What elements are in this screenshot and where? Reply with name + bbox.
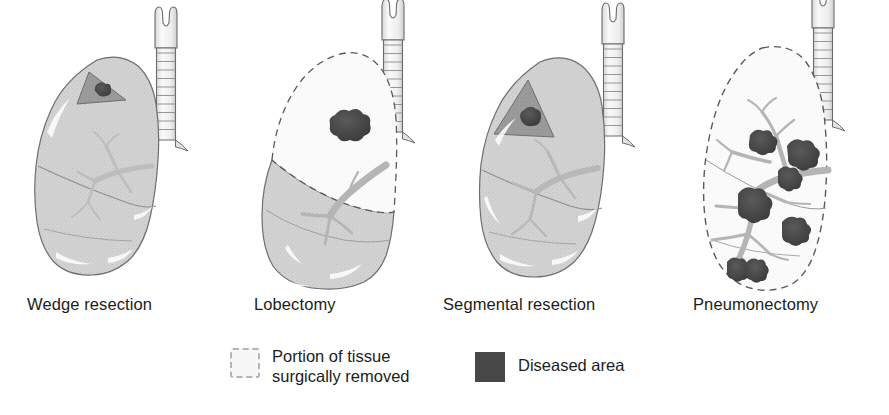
panel-label-segmental-resection: Segmental resection [443,295,595,314]
legend-label-removed-tissue: Portion of tissue surgically removed [272,346,410,386]
legend-label-removed-line1: Portion of tissue [272,346,410,366]
legend-label-diseased-area: Diseased area [518,355,624,375]
panel-label-pneumonectomy: Pneumonectomy [693,295,818,314]
panel-label-wedge-resection: Wedge resection [27,295,152,314]
legend-swatch-diseased-area [475,352,505,382]
diagram-canvas [0,0,889,415]
panel-label-lobectomy: Lobectomy [254,295,336,314]
legend-swatch-removed-tissue [230,348,260,378]
legend-label-removed-line2: surgically removed [272,366,410,386]
lung-resection-diagram: Wedge resection Lobectomy Segmental rese… [0,0,889,415]
